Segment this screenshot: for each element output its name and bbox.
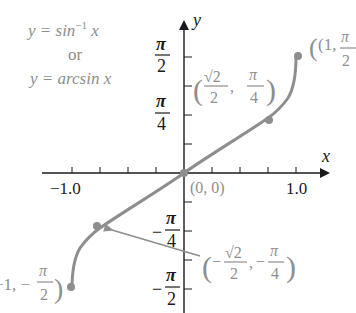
point-negsqrt2-negpi4 bbox=[93, 222, 101, 230]
svg-text:2: 2 bbox=[40, 286, 48, 303]
x-axis-label: x bbox=[321, 146, 330, 166]
svg-text:,: , bbox=[249, 254, 253, 271]
svg-text:(: ( bbox=[202, 250, 212, 284]
svg-text:√2: √2 bbox=[225, 244, 242, 261]
y-tick-label-pi-over-4: π 4 bbox=[155, 91, 170, 134]
svg-text:π: π bbox=[166, 265, 177, 285]
annotation-1-pi2: ( (1, π 2 bbox=[309, 28, 356, 69]
arcsin-graph: y = sin−1 x or y = arcsin x x y −1.0 1.0… bbox=[0, 0, 356, 313]
svg-text:4: 4 bbox=[271, 265, 279, 282]
svg-text:y = arcsin x: y = arcsin x bbox=[28, 69, 112, 88]
svg-text:2: 2 bbox=[167, 289, 176, 309]
y-tick-label-pi-over-2: π 2 bbox=[155, 34, 170, 76]
y-tick-label-neg-pi-over-2: − π 2 bbox=[152, 265, 180, 309]
origin-label: (0, 0) bbox=[190, 179, 225, 197]
svg-text:2: 2 bbox=[342, 52, 350, 69]
svg-text:π: π bbox=[166, 208, 177, 228]
point-sqrt2-pi4 bbox=[265, 116, 273, 124]
svg-text:or: or bbox=[68, 45, 83, 64]
svg-text:2: 2 bbox=[230, 265, 238, 282]
point-neg1-negpi2 bbox=[67, 283, 75, 291]
svg-text:): ) bbox=[286, 250, 296, 284]
x-tick-label-neg1: −1.0 bbox=[50, 179, 81, 198]
svg-text:π: π bbox=[39, 262, 48, 279]
x-tick-label-pos1: 1.0 bbox=[286, 179, 307, 198]
svg-text:−: − bbox=[212, 253, 221, 270]
svg-text:4: 4 bbox=[250, 89, 258, 106]
svg-text:y = sin−1 x: y = sin−1 x bbox=[26, 19, 99, 40]
svg-text:−1, −: −1, − bbox=[0, 275, 30, 294]
annotation-negsqrt2-negpi4: ( − √2 2 , − π 4 ) bbox=[202, 242, 296, 284]
svg-text:): ) bbox=[266, 73, 276, 107]
svg-text:−: − bbox=[152, 279, 162, 299]
point-origin bbox=[180, 169, 188, 177]
y-tick-label-neg-pi-over-4: − π 4 bbox=[152, 208, 180, 251]
svg-text:(1,: (1, bbox=[318, 35, 336, 54]
svg-text:−: − bbox=[256, 253, 265, 270]
svg-text:2: 2 bbox=[210, 89, 218, 106]
svg-text:2: 2 bbox=[157, 56, 166, 76]
svg-text:π: π bbox=[270, 242, 279, 259]
svg-text:4: 4 bbox=[167, 231, 176, 251]
svg-text:√2: √2 bbox=[204, 68, 221, 85]
chart-title: y = sin−1 x or y = arcsin x bbox=[26, 19, 112, 88]
svg-text:−: − bbox=[152, 222, 162, 242]
chart-canvas: y = sin−1 x or y = arcsin x x y −1.0 1.0… bbox=[0, 0, 356, 313]
svg-text:): ) bbox=[54, 273, 63, 304]
svg-text:π: π bbox=[341, 28, 350, 45]
svg-text:,: , bbox=[230, 78, 234, 95]
point-1-pi2 bbox=[294, 52, 302, 60]
svg-text:(: ( bbox=[193, 73, 203, 107]
svg-text:4: 4 bbox=[157, 114, 166, 134]
annotation-neg1-negpi2: −1, − π 2 ) bbox=[0, 262, 63, 304]
y-axis-label: y bbox=[191, 10, 201, 30]
svg-text:π: π bbox=[249, 66, 258, 83]
svg-text:(: ( bbox=[309, 33, 318, 62]
svg-text:π: π bbox=[156, 91, 167, 111]
annotation-sqrt2-pi4: ( √2 2 , π 4 ) bbox=[193, 66, 276, 107]
svg-text:π: π bbox=[156, 34, 167, 54]
